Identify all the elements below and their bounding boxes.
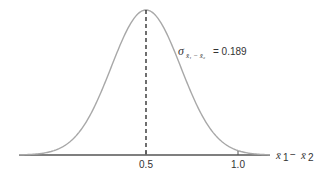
tick-label-1.0: 1.0 xyxy=(231,159,245,170)
svg-text:= 0.189: = 0.189 xyxy=(213,46,247,57)
tick-label-0.5: 0.5 xyxy=(139,159,153,170)
x-axis-label: x̄ 1 − x̄ 2 xyxy=(275,149,314,163)
normal-distribution-chart: 0.5 1.0 σ x̄₁ − x̄₂ = 0.189 x̄ 1 − x̄ 2 xyxy=(0,0,322,178)
svg-text:σ: σ xyxy=(178,44,185,58)
svg-text:2: 2 xyxy=(308,152,314,163)
svg-text:x̄: x̄ xyxy=(300,149,306,161)
svg-text:1: 1 xyxy=(283,152,289,163)
sigma-annotation: σ x̄₁ − x̄₂ = 0.189 xyxy=(178,44,247,60)
svg-text:x̄₁ − x̄₂: x̄₁ − x̄₂ xyxy=(185,52,206,60)
svg-text:−: − xyxy=(290,149,296,160)
normal-curve xyxy=(19,10,270,155)
svg-text:x̄: x̄ xyxy=(275,149,281,161)
